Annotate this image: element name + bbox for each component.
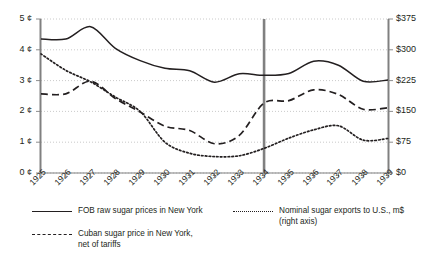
chart-legend: FOB raw sugar prices in New York Cuban s… — [0, 196, 429, 256]
legend-swatch-exports — [233, 211, 273, 212]
sugar-price-chart: 0 ¢1 ¢2 ¢3 ¢4 ¢5 ¢ $0$75$150$225$300$375… — [0, 0, 429, 256]
legend-label-cuban: Cuban sugar price in New York, — [78, 229, 193, 240]
right-axis-tick-label: $300 — [396, 45, 428, 54]
legend-label-cuban-line2: net of tariffs — [78, 240, 121, 251]
right-axis-tick-label: $75 — [396, 137, 428, 146]
right-axis-tick-label: $0 — [396, 168, 428, 177]
gridlines — [41, 19, 388, 173]
left-axis-tick-label: 4 ¢ — [6, 45, 32, 54]
right-axis-tick-label: $150 — [396, 106, 428, 115]
series-line-2 — [41, 81, 388, 144]
left-axis-tick-label: 5 ¢ — [6, 14, 32, 23]
series-line-3 — [41, 54, 388, 157]
legend-swatch-cuban — [32, 234, 72, 235]
left-axis-tick-label: 0 ¢ — [6, 168, 32, 177]
right-axis-tick-label: $225 — [396, 76, 428, 85]
right-axis-tick-label: $375 — [396, 14, 428, 23]
left-axis-tick-label: 2 ¢ — [6, 106, 32, 115]
legend-swatch-fob — [32, 211, 72, 212]
legend-label-exports: Nominal sugar exports to U.S., m$ — [279, 206, 404, 217]
series-line-1 — [41, 27, 388, 83]
legend-label-exports-line2: (right axis) — [279, 217, 317, 228]
left-axis-tick-label: 3 ¢ — [6, 76, 32, 85]
series-layer — [41, 27, 388, 157]
legend-label-fob: FOB raw sugar prices in New York — [78, 206, 203, 217]
left-axis-tick-label: 1 ¢ — [6, 137, 32, 146]
